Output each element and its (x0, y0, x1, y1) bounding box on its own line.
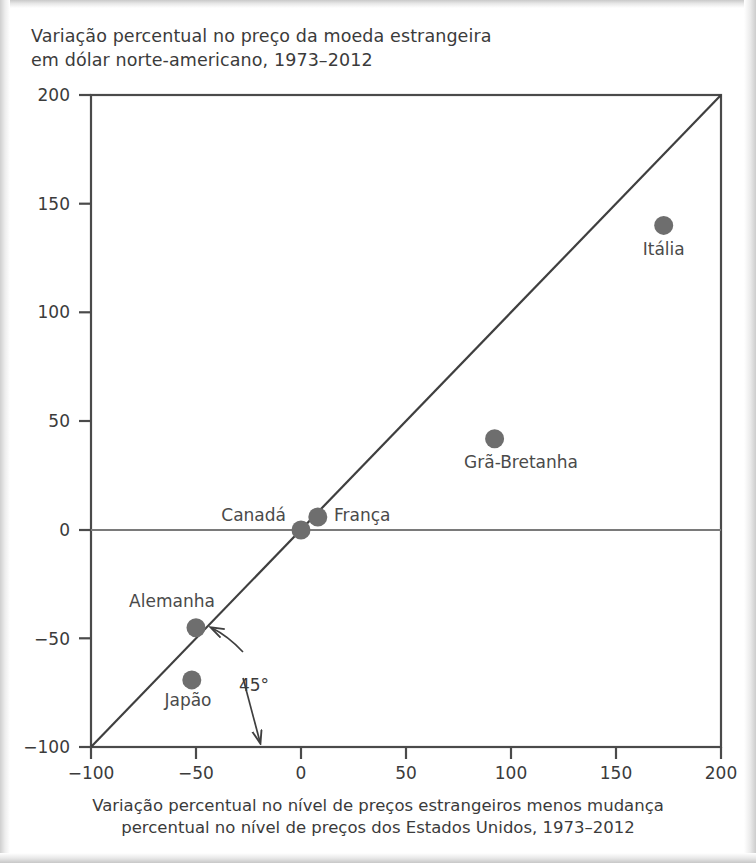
y-axis-ticks (79, 95, 91, 747)
x-tick-label-50: 50 (395, 763, 417, 783)
data-point-alemanha (187, 618, 206, 637)
data-label-japao: Japão (163, 690, 211, 710)
data-label-alemanha: Alemanha (129, 591, 215, 611)
figure-container: Variação percentual no preço da moeda es… (0, 0, 756, 863)
data-label-canada: Canadá (221, 505, 286, 525)
data-point-italia (654, 216, 673, 235)
forty-five-degree-line (91, 95, 721, 747)
x-tick-label-200: 200 (705, 763, 737, 783)
y-tick-label-200: 200 (38, 85, 70, 105)
scatter-plot: 200 150 100 50 0 −50 −100 −100 −50 0 50 … (0, 0, 756, 863)
data-point-japao (182, 670, 201, 689)
x-tick-label-150: 150 (600, 763, 632, 783)
forty-five-degree-label: 45° (239, 675, 269, 695)
x-axis-title-line-1: Variação percentual no nível de preços e… (31, 795, 725, 817)
x-tick-label-neg100: −100 (68, 763, 115, 783)
y-tick-label-neg50: −50 (34, 629, 70, 649)
x-axis-ticks (91, 747, 721, 759)
data-label-gra-bretanha: Grã-Bretanha (464, 452, 578, 472)
y-tick-label-0: 0 (59, 520, 70, 540)
data-point-canada (292, 521, 311, 540)
forty-five-annotation-arrow-up (212, 628, 243, 652)
data-label-franca: França (334, 505, 391, 525)
data-point-gra-bretanha (485, 429, 504, 448)
y-tick-label-50: 50 (48, 411, 70, 431)
x-tick-label-0: 0 (296, 763, 307, 783)
data-point-franca (308, 508, 327, 527)
y-tick-label-150: 150 (38, 194, 70, 214)
data-label-italia: Itália (643, 239, 685, 259)
y-tick-label-100: 100 (38, 302, 70, 322)
x-tick-label-100: 100 (495, 763, 527, 783)
x-axis-title: Variação percentual no nível de preços e… (31, 795, 725, 839)
y-tick-label-neg100: −100 (23, 737, 70, 757)
x-axis-title-line-2: percentual no nível de preços dos Estado… (31, 817, 725, 839)
x-tick-label-neg50: −50 (178, 763, 214, 783)
